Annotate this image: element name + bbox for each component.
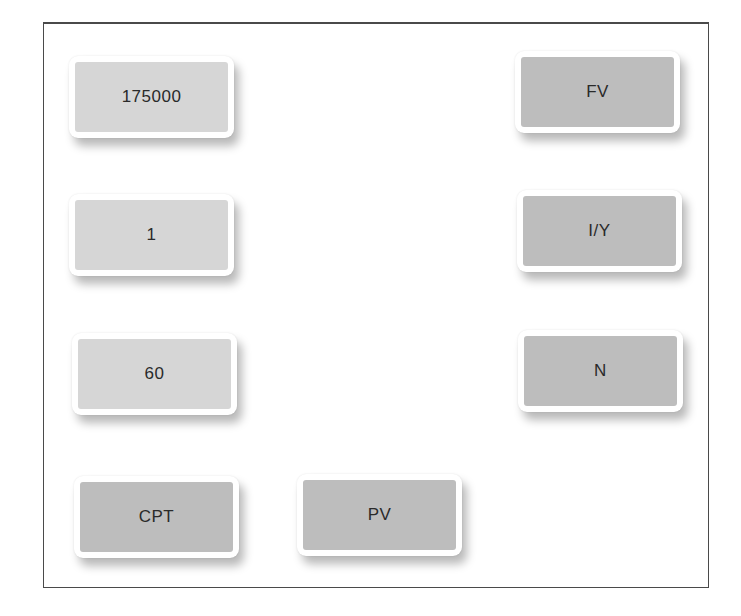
key-label: CPT [80,482,233,552]
key-label: 175000 [75,62,228,132]
key-label: 60 [78,339,231,409]
value-key-60[interactable]: 60 [72,333,237,415]
key-label: I/Y [523,196,676,266]
key-label: FV [521,57,674,127]
key-label: PV [303,480,456,550]
cpt-key[interactable]: CPT [74,476,239,558]
iy-key[interactable]: I/Y [517,190,682,272]
key-label: N [524,336,677,406]
n-key[interactable]: N [518,330,683,412]
fv-key[interactable]: FV [515,51,680,133]
key-label: 1 [75,200,228,270]
pv-key[interactable]: PV [297,474,462,556]
value-key-1[interactable]: 1 [69,194,234,276]
value-key-175000[interactable]: 175000 [69,56,234,138]
